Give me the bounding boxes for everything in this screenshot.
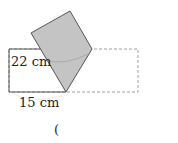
width-label: 15 cm	[19, 96, 59, 109]
folded-flap	[31, 11, 92, 92]
answer-paren: (	[54, 123, 59, 136]
folded-rectangle-diagram	[0, 0, 178, 143]
height-label: 22 cm	[11, 55, 51, 68]
